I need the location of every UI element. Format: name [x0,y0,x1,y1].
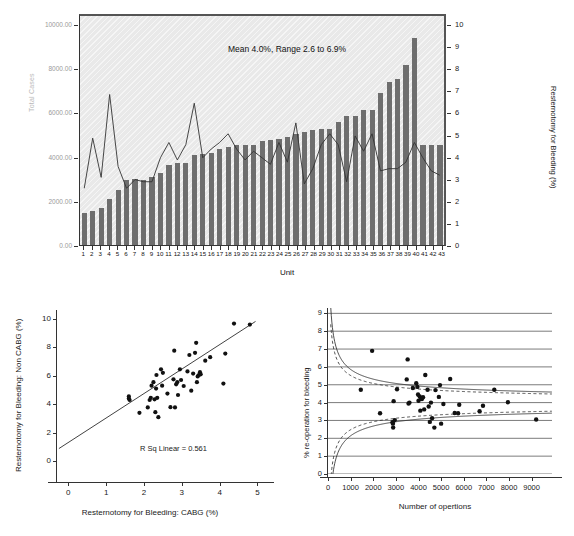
funnel-x-tick-label: 9000 [519,483,545,492]
y-tick-mark-left [74,202,78,203]
scatter-y-tick-label: 6 [47,371,51,380]
funnel-point [391,425,395,429]
scatter-point [149,384,153,388]
scatter-y-tick-label: 4 [47,399,51,408]
x-tick-label: 39 [403,250,412,262]
x-tick-label: 29 [318,250,327,262]
scatter-point [223,351,227,355]
y-tick-label-left: 10000.00 [45,21,72,28]
x-tick-label: 6 [122,250,131,262]
funnel-point [492,388,496,392]
y-tick-mark-right [447,69,451,70]
x-tick-label: 11 [164,250,173,262]
x-tick-label: 34 [361,250,370,262]
x-tick-label: 41 [420,250,429,262]
funnel-x-tick-mark [441,477,442,481]
y-tick-label-right: 5 [455,131,459,140]
scatter-point [159,367,163,371]
x-tick-label: 28 [309,250,318,262]
funnel-chart: 0123456789 01000200030004000500060007000… [296,296,574,536]
y-tick-label-right: 3 [455,175,459,184]
funnel-x-tick-mark [419,477,420,481]
y-tick-label-left: 2000.00 [49,198,73,205]
x-tick-label: 4 [105,250,114,262]
scatter-point [160,384,164,388]
x-tick-label: 18 [224,250,233,262]
scatter-x-tick-mark [68,482,69,486]
funnel-point [407,400,411,404]
x-tick-label: 19 [233,250,242,262]
scatter-point [153,410,157,414]
funnel-point [481,404,485,408]
x-tick-label: 33 [352,250,361,262]
scatter-point [179,378,183,382]
scatter-point [175,380,179,384]
x-tick-label: 37 [386,250,395,262]
funnel-x-tick-mark [351,477,352,481]
scatter-point [189,389,193,393]
scatter-point [221,381,225,385]
y-tick-label-left: 6000.00 [49,109,73,116]
scatter-x-tick-label: 4 [212,488,228,497]
funnel-y-tick-label: 4 [318,398,322,407]
funnel-point [425,388,429,392]
y-tick-label-right: 4 [455,153,459,162]
funnel-point [456,411,460,415]
scatter-y-tick-label: 0 [47,456,51,465]
x-tick-label: 1 [79,250,88,262]
scatter-point [199,372,203,376]
scatter-axis-label-y: Resternotomy for Bleeding: Non CABG (%) [14,319,23,472]
funnel-point [423,373,427,377]
scatter-point [176,393,180,397]
x-tick-label: 35 [369,250,378,262]
scatter-point [203,359,207,363]
x-tick-label: 38 [395,250,404,262]
x-tick-label: 3 [96,250,105,262]
x-tick-label: 9 [147,250,156,262]
scatter-point [155,396,159,400]
x-tick-label: 14 [190,250,199,262]
y-tick-label-right: 1 [455,219,459,228]
x-tick-label: 17 [216,250,225,262]
funnel-point [405,357,409,361]
y-tick-label-right: 10 [455,20,463,29]
funnel-y-tick-label: 1 [318,451,322,460]
y-tick-mark-left [74,69,78,70]
y-tick-label-left: 8000.00 [49,65,73,72]
scatter-point [154,373,158,377]
x-tick-label: 7 [130,250,139,262]
funnel-x-tick-mark [373,477,374,481]
funnel-y-tick-label: 7 [318,344,322,353]
scatter-x-tick-label: 1 [98,488,114,497]
y-tick-mark-right [447,180,451,181]
x-tick-label: 8 [139,250,148,262]
funnel-x-tick-mark [509,477,510,481]
y-tick-mark-right [447,158,451,159]
funnel-axis-label-y: % re-operation for bleeding [302,368,311,458]
funnel-x-tick-mark [486,477,487,481]
axis-label-unit: Unit [0,268,574,277]
scatter-point [128,398,132,402]
scatter-x-tick-mark [144,482,145,486]
scatter-point [194,341,198,345]
scatter-point [185,369,189,373]
funnel-point [421,395,425,399]
y-tick-label-left: 0.00 [59,242,72,249]
limit-curve-3sd-upper [331,308,552,392]
x-tick-label: 26 [292,250,301,262]
scatter-point [182,384,186,388]
y-tick-mark-right [447,91,451,92]
y-tick-label-left: 4000.00 [49,154,73,161]
funnel-point [378,411,382,415]
unit-bar-line-chart: Total Cases 0.002000.004000.006000.00800… [0,0,574,292]
funnel-plot-area [328,308,552,474]
funnel-points-layer [328,308,552,474]
axis-label-total-cases: Total Cases [28,73,35,112]
scatter-point [161,371,165,375]
scatter-point [208,355,212,359]
x-tick-label: 10 [156,250,165,262]
scatter-point [154,386,158,390]
x-tick-label: 5 [113,250,122,262]
funnel-point [415,385,419,389]
regression-line [59,321,256,448]
